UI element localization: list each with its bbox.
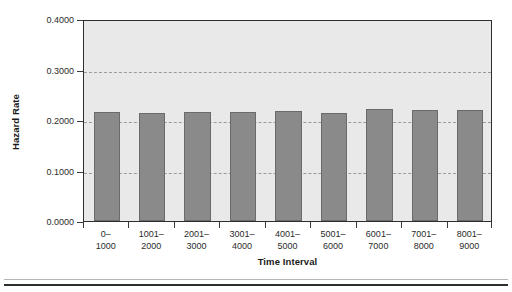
x-tick-label-line: 6001– <box>356 229 401 241</box>
x-tick-label: 5001–6000 <box>310 229 355 252</box>
x-tick-label: 3001–4000 <box>219 229 264 252</box>
bar <box>275 111 301 221</box>
bar-series <box>84 21 491 221</box>
y-tick-label: 0.3000 <box>26 66 74 76</box>
x-tick-mark <box>356 222 357 228</box>
x-tick-mark <box>265 222 266 228</box>
footer-rule-thin <box>4 279 508 280</box>
x-tick-label: 8001–9000 <box>447 229 492 252</box>
hazard-rate-bar-chart-figure: Hazard Rate 0.00000.10000.20000.30000.40… <box>0 0 512 292</box>
x-tick-label: 1001–2000 <box>128 229 173 252</box>
y-tick-label: 0.1000 <box>26 167 74 177</box>
x-tick-label-line: 3000 <box>174 241 219 253</box>
x-tick-mark <box>83 222 84 228</box>
x-tick-label-line: 7001– <box>401 229 446 241</box>
x-tick-label-line: 4001– <box>265 229 310 241</box>
footer-rule-thick <box>4 284 508 286</box>
x-tick-mark <box>401 222 402 228</box>
x-tick-label-line: 3001– <box>219 229 264 241</box>
x-tick-label-line: 2000 <box>128 241 173 253</box>
y-tick-label: 0.2000 <box>26 116 74 126</box>
bar <box>94 112 120 221</box>
x-tick-label: 2001–3000 <box>174 229 219 252</box>
x-tick-label: 7001–8000 <box>401 229 446 252</box>
bar <box>412 110 438 221</box>
x-tick-label-line: 8001– <box>447 229 492 241</box>
x-tick-label-line: 5001– <box>310 229 355 241</box>
x-axis-title: Time Interval <box>83 256 492 267</box>
plot-area <box>83 20 492 222</box>
x-tick-label-line: 1000 <box>83 241 128 253</box>
x-tick-label-line: 1001– <box>128 229 173 241</box>
x-tick-label-line: 7000 <box>356 241 401 253</box>
x-tick-label-line: 8000 <box>401 241 446 253</box>
x-tick-label: 4001–5000 <box>265 229 310 252</box>
x-tick-label: 6001–7000 <box>356 229 401 252</box>
bar <box>184 112 210 221</box>
bar <box>139 113 165 221</box>
x-tick-label: 0–1000 <box>83 229 128 252</box>
x-tick-mark <box>174 222 175 228</box>
x-tick-mark <box>128 222 129 228</box>
x-tick-label-line: 9000 <box>447 241 492 253</box>
x-tick-label-line: 0– <box>83 229 128 241</box>
y-axis-tick-labels: 0.00000.10000.20000.30000.4000 <box>26 0 74 292</box>
x-tick-mark <box>310 222 311 228</box>
y-tick-label: 0.0000 <box>26 217 74 227</box>
bar <box>366 109 392 221</box>
x-tick-label-line: 2001– <box>174 229 219 241</box>
x-axis-tick-marks <box>83 222 492 229</box>
x-tick-mark <box>447 222 448 228</box>
x-tick-mark <box>491 222 492 228</box>
x-tick-mark <box>219 222 220 228</box>
bar <box>230 112 256 221</box>
bar <box>457 110 483 221</box>
y-axis-title: Hazard Rate <box>8 2 24 242</box>
x-axis-tick-labels: 0–10001001–20002001–30003001–40004001–50… <box>83 229 492 255</box>
bar <box>321 113 347 221</box>
y-tick-label: 0.4000 <box>26 15 74 25</box>
x-tick-label-line: 6000 <box>310 241 355 253</box>
x-tick-label-line: 4000 <box>219 241 264 253</box>
x-tick-label-line: 5000 <box>265 241 310 253</box>
